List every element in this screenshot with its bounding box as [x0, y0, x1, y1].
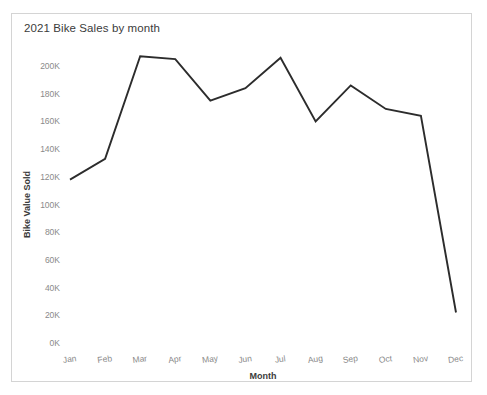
- y-axis-tick-labels: 0K20K40K60K80K100K120K140K160K180K200K: [40, 61, 60, 348]
- x-tick-label: May: [201, 353, 219, 365]
- x-tick-label: Jun: [238, 353, 253, 365]
- chart-plot-area: 0K20K40K60K80K100K120K140K160K180K200K J…: [12, 14, 473, 383]
- visualization-card: 2021 Bike Sales by month 0K20K40K60K80K1…: [11, 13, 472, 382]
- x-tick-label: Nov: [412, 353, 429, 365]
- x-tick-label: Dec: [447, 353, 464, 365]
- x-tick-label: Aug: [307, 353, 324, 365]
- x-tick-label: Apr: [168, 353, 183, 365]
- y-tick-label: 160K: [40, 116, 60, 126]
- y-tick-label: 120K: [40, 172, 60, 182]
- x-axis-title: Month: [250, 371, 277, 381]
- x-tick-label: Oct: [378, 353, 393, 365]
- y-tick-label: 140K: [40, 144, 60, 154]
- x-tick-label: Sep: [342, 353, 359, 365]
- y-tick-label: 20K: [45, 310, 60, 320]
- x-tick-label: Jan: [62, 353, 77, 365]
- x-tick-label: Jul: [274, 353, 286, 364]
- x-tick-label: Mar: [132, 353, 148, 365]
- y-tick-label: 80K: [45, 227, 60, 237]
- data-series-line: [70, 56, 456, 312]
- y-axis-title: Bike Value Sold: [22, 171, 32, 238]
- y-tick-label: 40K: [45, 283, 60, 293]
- y-tick-label: 180K: [40, 89, 60, 99]
- y-tick-label: 100K: [40, 200, 60, 210]
- x-tick-label: Feb: [97, 353, 113, 365]
- x-axis-tick-labels: JanFebMarAprMayJunJulAugSepOctNovDec: [62, 353, 464, 365]
- y-tick-label: 60K: [45, 255, 60, 265]
- y-tick-label: 0K: [50, 338, 61, 348]
- line-chart-svg: 0K20K40K60K80K100K120K140K160K180K200K J…: [12, 14, 473, 383]
- y-tick-label: 200K: [40, 61, 60, 71]
